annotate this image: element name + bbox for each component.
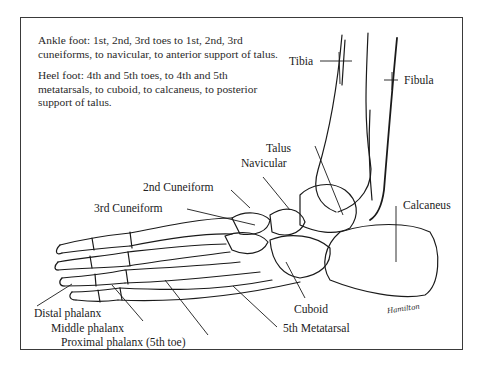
label-cuboid: Cuboid [294,303,328,316]
label-2nd-cuneiform: 2nd Cuneiform [143,181,214,194]
label-middle-phalanx: Middle phalanx [51,322,124,335]
cuboid-outline [270,236,330,278]
calcaneus-outline [325,225,438,297]
label-proximal-phalanx: Proximal phalanx (5th toe) [61,336,186,349]
label-tibia: Tibia [289,55,313,68]
label-navicular: Navicular [241,157,287,170]
label-distal-phalanx: Distal phalanx [34,307,101,320]
label-3rd-cuneiform: 3rd Cuneiform [94,202,163,215]
label-fibula: Fibula [404,74,434,87]
label-5th-metatarsal: 5th Metatarsal [283,322,350,335]
fibula-outline [370,38,397,220]
label-calcaneus: Calcaneus [403,199,451,212]
label-talus: Talus [266,142,291,155]
